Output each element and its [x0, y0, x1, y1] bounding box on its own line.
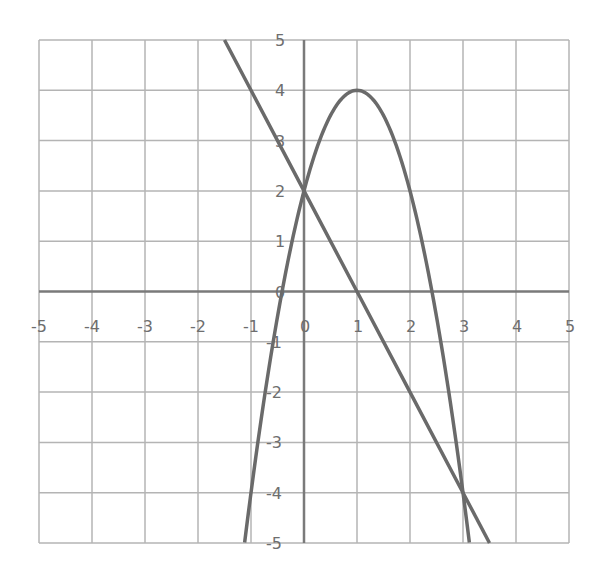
y-tick-label: -3: [266, 433, 282, 452]
x-axis-tick-labels: -5-4-3-2-1012345: [31, 317, 575, 336]
x-tick-label: -2: [190, 317, 206, 336]
x-tick-label: 1: [353, 317, 363, 336]
y-tick-label: 4: [275, 81, 285, 100]
y-tick-label: -2: [266, 383, 282, 402]
y-tick-label: -1: [266, 333, 282, 352]
x-tick-label: 5: [565, 317, 575, 336]
y-tick-label: 0: [275, 283, 285, 302]
x-tick-label: 0: [300, 317, 310, 336]
y-tick-label: -4: [266, 484, 282, 503]
x-tick-label: -1: [243, 317, 259, 336]
y-tick-label: 2: [275, 182, 285, 201]
x-tick-label: -5: [31, 317, 47, 336]
x-tick-label: -4: [84, 317, 100, 336]
x-tick-label: -3: [137, 317, 153, 336]
y-tick-label: 5: [275, 31, 285, 50]
x-tick-label: 2: [406, 317, 416, 336]
x-tick-label: 3: [459, 317, 469, 336]
y-tick-label: -5: [266, 534, 282, 553]
y-tick-label: 1: [275, 232, 285, 251]
function-graph: -5-4-3-2-1012345 543210-1-2-3-4-5: [0, 0, 601, 570]
axes: [39, 40, 569, 543]
y-tick-label: 3: [275, 132, 285, 151]
x-tick-label: 4: [512, 317, 522, 336]
